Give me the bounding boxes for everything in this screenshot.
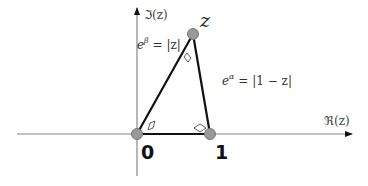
point-origin-label: 0	[141, 143, 154, 162]
edge-origin-z-label: eβ = |z|	[137, 37, 181, 51]
edge-z-one-label: eα = |1 − z|	[222, 73, 292, 87]
point-origin	[132, 129, 143, 140]
angle-marker-origin	[148, 121, 155, 130]
point-one-label: 1	[215, 143, 228, 162]
real-axis-label: ℜ(z)	[324, 115, 350, 127]
edge-z-one-label-rest: = |1 − z|	[235, 74, 292, 88]
point-z	[188, 29, 199, 40]
point-one	[205, 129, 216, 140]
point-z-label: z	[200, 11, 210, 30]
imaginary-axis-label: ℑ(z)	[144, 9, 168, 21]
edge-z-one	[193, 34, 210, 134]
edge-origin-z-label-rest: = |z|	[149, 38, 181, 52]
triangle-diagram	[0, 0, 368, 186]
angle-marker-one	[194, 124, 206, 132]
angle-marker-z	[184, 53, 191, 62]
